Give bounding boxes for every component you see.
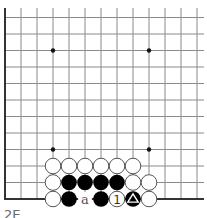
- star-point: [51, 48, 55, 52]
- go-board: a1: [0, 0, 207, 218]
- white-stone: [125, 175, 141, 191]
- white-stone: [61, 158, 77, 174]
- star-point: [147, 147, 151, 151]
- black-stone: [93, 191, 109, 207]
- star-point: [51, 147, 55, 151]
- white-stone: [109, 158, 125, 174]
- white-stone: [141, 191, 157, 207]
- diagram-caption: 2E: [4, 208, 21, 218]
- black-stone: [61, 191, 77, 207]
- white-stone: [45, 175, 61, 191]
- white-stone: [125, 158, 141, 174]
- white-stone: [93, 158, 109, 174]
- white-stone: [45, 191, 61, 207]
- black-stone: [93, 175, 109, 191]
- point-label-a: a: [81, 192, 89, 207]
- white-stone: [77, 158, 93, 174]
- star-point: [147, 48, 151, 52]
- black-stone: [77, 175, 93, 191]
- move-number-label: 1: [113, 193, 121, 207]
- black-stone: [109, 175, 125, 191]
- black-stone: [61, 175, 77, 191]
- white-stone: [141, 175, 157, 191]
- white-stone: [45, 158, 61, 174]
